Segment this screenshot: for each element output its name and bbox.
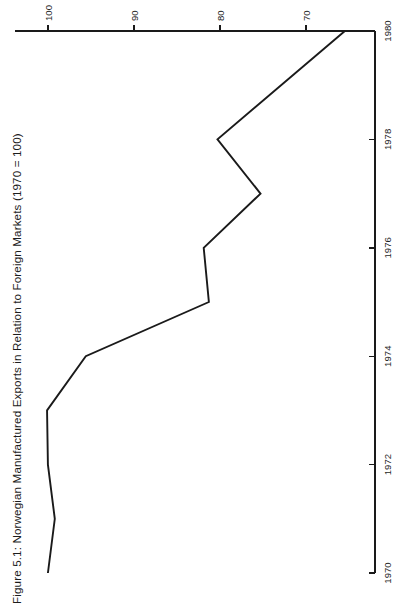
x-tick-label: 1972 bbox=[382, 454, 393, 475]
y-tick-label: 90 bbox=[128, 10, 139, 21]
y-tick-label: 70 bbox=[301, 10, 312, 21]
y-tick-label: 80 bbox=[215, 10, 226, 21]
x-tick-label: 1974 bbox=[382, 346, 393, 367]
x-tick-label: 1976 bbox=[382, 237, 393, 258]
y-tick-label: 100 bbox=[42, 5, 53, 21]
series-group bbox=[47, 31, 345, 573]
ticks-group bbox=[48, 25, 375, 573]
x-tick-label: 1978 bbox=[382, 129, 393, 150]
x-tick-label: 1970 bbox=[382, 562, 393, 583]
figure-root: Figure 5.1: Norwegian Manufactured Expor… bbox=[0, 0, 400, 608]
rotated-figure-stage: Figure 5.1: Norwegian Manufactured Expor… bbox=[0, 0, 400, 608]
chart-canvas bbox=[0, 0, 400, 608]
x-tick-label: 1980 bbox=[382, 20, 393, 41]
data-series-line bbox=[47, 31, 345, 573]
axes-group bbox=[15, 31, 375, 573]
